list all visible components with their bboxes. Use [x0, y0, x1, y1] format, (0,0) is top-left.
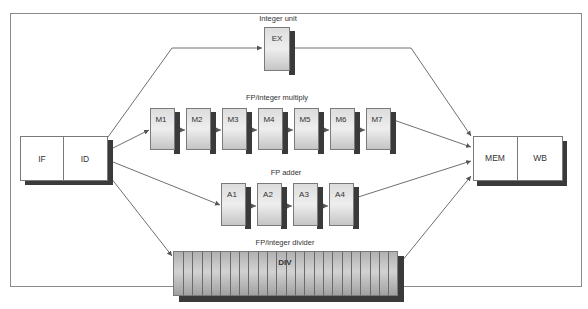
stage-if-label: IF — [38, 154, 46, 164]
stage-m7: M7 — [367, 109, 397, 155]
stage-m4: M4 — [259, 109, 289, 155]
stage-m6-label: M6 — [335, 115, 347, 124]
adder-unit: FP adder A1 A2 A3 A4 — [222, 168, 360, 229]
stage-a2-label: A2 — [263, 190, 273, 199]
stage-m3-label: M3 — [227, 115, 239, 124]
stage-m5: M5 — [295, 109, 325, 155]
stage-m6: M6 — [331, 109, 361, 155]
line-div-to-mem — [402, 176, 471, 261]
stage-mem-label: MEM — [485, 153, 505, 163]
stage-m7-label: M7 — [371, 115, 383, 124]
back-stages: MEM WB — [474, 137, 568, 187]
stage-div-label: DIV — [278, 258, 292, 267]
stage-a3-label: A3 — [299, 190, 309, 199]
line-id-to-m1 — [113, 130, 149, 148]
pipeline-diagram: IF ID MEM WB Integer unit EX FP/integer … — [0, 0, 588, 309]
multiply-unit: FP/integer multiply M1 M2 M3 M4 M5 — [151, 93, 397, 154]
adder-unit-title: FP adder — [271, 168, 302, 177]
stage-a1-label: A1 — [227, 190, 237, 199]
stage-a4: A4 — [330, 184, 360, 230]
stage-m2-label: M2 — [191, 115, 203, 124]
stage-m1-label: M1 — [155, 115, 167, 124]
multiply-unit-title: FP/integer multiply — [246, 93, 308, 102]
line-id-to-a1 — [113, 162, 220, 205]
front-stages: IF ID — [21, 137, 114, 186]
line-m7-to-mem — [388, 118, 471, 147]
stage-a4-label: A4 — [335, 190, 345, 199]
stage-a2: A2 — [258, 184, 288, 230]
line-id-to-div — [111, 178, 172, 256]
stage-m4-label: M4 — [263, 115, 275, 124]
integer-unit: Integer unit EX — [259, 14, 297, 75]
stage-wb-label: WB — [533, 153, 547, 163]
stage-m1: M1 — [151, 109, 181, 155]
stage-m2: M2 — [187, 109, 217, 155]
divider-unit-title: FP/integer divider — [256, 238, 315, 247]
stage-id-label: ID — [81, 154, 90, 164]
stage-a3: A3 — [294, 184, 324, 230]
stage-a1: A1 — [222, 184, 252, 230]
integer-unit-title: Integer unit — [259, 14, 297, 23]
divider-unit: FP/integer divider DIV — [174, 238, 405, 302]
connector-lines — [108, 48, 471, 261]
stage-m5-label: M5 — [299, 115, 311, 124]
stage-m3: M3 — [223, 109, 253, 155]
line-a4-to-mem — [352, 161, 471, 199]
stage-ex-label: EX — [272, 34, 283, 43]
